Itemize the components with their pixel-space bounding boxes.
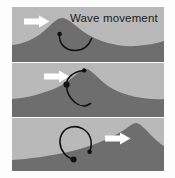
particle-orbit-circle	[58, 123, 98, 167]
particle-orbit-arc-shallow	[56, 31, 96, 53]
panel-stack: Wave movement	[12, 7, 164, 171]
page-title: Wave movement	[70, 13, 158, 25]
particle-dot-right	[87, 149, 92, 154]
wave-movement-figure: Wave movement	[0, 0, 175, 178]
wave-direction-arrow	[105, 132, 131, 145]
panel-wave-crest-center	[12, 63, 164, 117]
particle-dot	[57, 32, 62, 37]
particle-orbit-arc-c-shape	[60, 67, 96, 111]
wave-direction-arrow	[24, 15, 50, 28]
particle-dot-surface	[64, 82, 70, 88]
particle-dot-upper	[82, 68, 86, 72]
panel-wave-crest-right	[12, 118, 164, 171]
particle-dot-bottom	[71, 157, 77, 163]
